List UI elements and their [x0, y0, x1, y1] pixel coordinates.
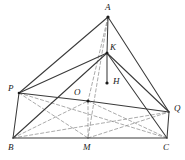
edge-B-Q-dashed — [13, 112, 169, 138]
edge-M-Q-dashed — [88, 112, 169, 138]
vertex-label-a: A — [105, 3, 111, 12]
dot-H — [105, 81, 108, 84]
edge-P-B — [13, 93, 19, 138]
edge-A-O-dashed — [88, 17, 108, 101]
vertex-label-h: H — [113, 77, 120, 86]
edge-P-C-dashed — [19, 93, 167, 138]
vertex-label-q: Q — [174, 104, 181, 113]
dot-A — [106, 15, 109, 18]
edge-K-P — [19, 53, 107, 93]
edge-A-M-dashed — [88, 17, 108, 138]
edge-Q-C — [167, 112, 169, 138]
geometry-figure: A K H P O Q B M C — [0, 0, 185, 160]
vertex-label-b: B — [8, 143, 14, 152]
dot-K — [106, 52, 109, 55]
geometry-canvas — [0, 0, 185, 160]
vertex-label-k: K — [110, 43, 116, 52]
dot-P — [18, 92, 21, 95]
dot-O — [86, 99, 89, 102]
edge-B-O-dashed — [13, 101, 88, 138]
vertex-label-c: C — [163, 143, 169, 152]
vertex-label-m: M — [83, 143, 91, 152]
vertex-label-o: O — [74, 88, 81, 97]
edge-A-P — [19, 17, 108, 93]
vertex-label-p: P — [8, 84, 14, 93]
